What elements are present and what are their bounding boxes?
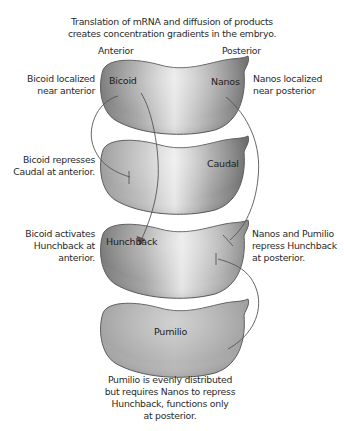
label-hunchback: Hunchback	[106, 236, 157, 247]
label-nanos: Nanos	[211, 76, 240, 87]
embryo-diagram	[0, 0, 344, 431]
annotation-bicoid-localized: Bicoid localized near anterior	[0, 73, 95, 97]
embryo-2	[101, 136, 249, 214]
embryo-1	[101, 56, 249, 134]
annotation-nanos-localized: Nanos localized near posterior	[253, 73, 344, 97]
annotation-nanos-pumilio: Nanos and Pumilio repress Hunchback at p…	[252, 228, 344, 264]
label-caudal: Caudal	[207, 158, 239, 169]
embryo-4	[101, 299, 249, 377]
embryo-3	[101, 220, 249, 298]
label-pumilio: Pumilio	[154, 326, 187, 337]
label-bicoid: Bicoid	[109, 75, 137, 86]
annotation-bicoid-activates: Bicoid activates Hunchback at anterior.	[0, 228, 95, 264]
annotation-bicoid-represses: Bicoid represses Caudal at anterior.	[0, 154, 95, 178]
annotation-pumilio-note: Pumilio is evenly distributed but requir…	[90, 374, 250, 422]
